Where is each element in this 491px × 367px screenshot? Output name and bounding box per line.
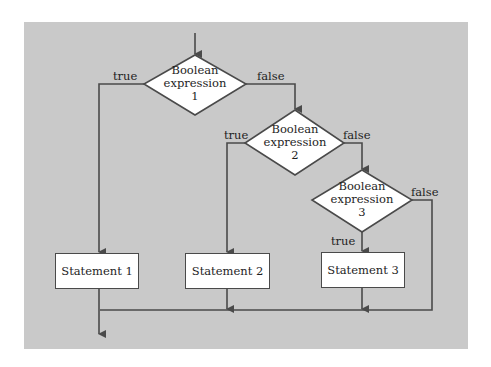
decision-2-line3: 2: [245, 149, 345, 162]
decision-2-true-label: true: [224, 129, 248, 142]
decision-3-true-label: true: [331, 235, 355, 248]
statement-2-box: Statement 2: [185, 253, 270, 289]
statement-1-label: Statement 1: [61, 264, 133, 278]
statement-2-label: Statement 2: [192, 264, 264, 278]
d1-false-connector: [245, 84, 295, 109]
d1-true-connector: [99, 84, 145, 252]
decision-1-line3: 1: [145, 90, 245, 103]
statement-3-box: Statement 3: [321, 252, 405, 288]
d2-true-connector: [227, 143, 245, 252]
decision-1-true-label: true: [113, 70, 137, 83]
decision-3-text: Boolean expression 3: [312, 180, 412, 219]
decision-1-false-label: false: [257, 70, 285, 83]
flowchart-connectors: [0, 0, 491, 367]
decision-3-false-label: false: [411, 186, 439, 199]
decision-2-false-label: false: [343, 129, 371, 142]
d2-false-connector: [344, 143, 362, 169]
decision-2-text: Boolean expression 2: [245, 123, 345, 162]
decision-3-line3: 3: [312, 206, 412, 219]
statement-3-label: Statement 3: [327, 263, 399, 277]
statement-1-box: Statement 1: [55, 253, 139, 289]
decision-1-text: Boolean expression 1: [145, 64, 245, 103]
